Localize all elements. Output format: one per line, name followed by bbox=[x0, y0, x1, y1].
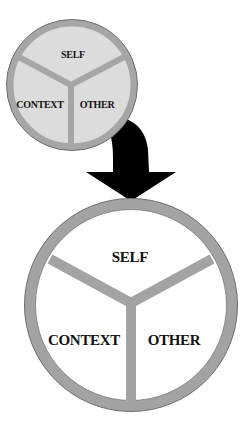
small-label-other: OTHER bbox=[80, 99, 116, 110]
small-label-self: SELF bbox=[61, 49, 85, 60]
large-label-self: SELF bbox=[112, 249, 148, 265]
large-label-other: OTHER bbox=[148, 332, 201, 348]
small-label-context: CONTEXT bbox=[16, 99, 64, 110]
large-label-context: CONTEXT bbox=[48, 332, 120, 348]
large-circle: SELF CONTEXT OTHER bbox=[25, 199, 238, 412]
small-circle: SELF CONTEXT OTHER bbox=[7, 20, 138, 151]
diagram-canvas: SELF CONTEXT OTHER SELF CONTEXT OTHER bbox=[0, 0, 250, 431]
